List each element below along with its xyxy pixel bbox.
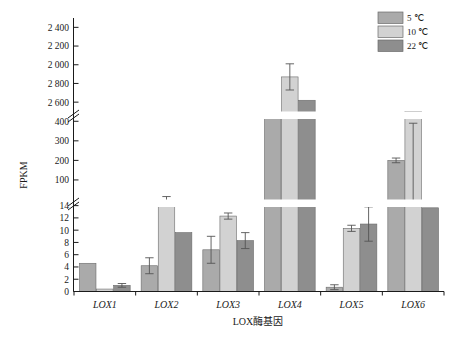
legend-label-1: 10 ℃ — [407, 27, 428, 37]
bar-LOX6-5 — [388, 160, 405, 291]
y-tick-label: 400 — [55, 117, 70, 127]
bar-LOX6-22 — [422, 208, 439, 292]
bar-LOX4-10 — [282, 77, 299, 292]
axis-break-band-upper — [74, 112, 444, 120]
x-category-label: LOX5 — [339, 299, 364, 310]
bar-LOX2-22 — [175, 233, 192, 292]
y-tick-label: 2 — [64, 275, 69, 285]
legend-label-2: 22 ℃ — [407, 41, 428, 51]
legend-swatch-1 — [378, 26, 403, 38]
x-category-label: LOX2 — [154, 299, 179, 310]
bar-LOX3-10 — [220, 216, 237, 291]
x-category-label: LOX6 — [400, 299, 425, 310]
axis-break-band-lower — [74, 200, 444, 208]
y-tick-label: 2 800 — [48, 79, 70, 89]
x-category-label: LOX4 — [277, 299, 302, 310]
y-tick-label: 300 — [55, 136, 70, 146]
x-axis-title: LOX酶基因 — [233, 315, 284, 327]
y-tick-label: 4 — [64, 262, 69, 272]
chart-svg: 024681012141002003004002 6002 8002 0002 … — [0, 0, 455, 343]
bar-LOX1-5 — [79, 263, 96, 291]
y-tick-label: 2 000 — [48, 60, 70, 70]
legend-label-0: 5 ℃ — [407, 13, 424, 23]
legend-swatch-0 — [378, 12, 403, 24]
bar-LOX2-10 — [158, 202, 175, 292]
y-tick-label: 8 — [64, 238, 69, 248]
y-tick-label: 12 — [60, 213, 70, 223]
x-category-label: LOX3 — [215, 299, 240, 310]
legend: 5 ℃10 ℃22 ℃ — [378, 12, 428, 52]
y-axis-title: FPKM — [18, 161, 29, 188]
bar-LOX5-10 — [343, 228, 360, 291]
bar-LOX4-22 — [299, 100, 316, 291]
y-tick-label: 200 — [55, 156, 70, 166]
bars-layer — [79, 64, 438, 292]
y-tick-label: 10 — [60, 226, 70, 236]
x-axis-ticks — [74, 292, 444, 296]
x-axis-category-labels: LOX1LOX2LOX3LOX4LOX5LOX6 — [92, 299, 425, 310]
y-tick-label: 2 400 — [48, 23, 70, 33]
x-category-label: LOX1 — [92, 299, 117, 310]
legend-swatch-2 — [378, 40, 403, 52]
y-tick-label: 14 — [60, 201, 70, 211]
y-axis-tick-labels: 024681012141002003004002 6002 8002 0002 … — [48, 23, 70, 297]
y-axis-ticks — [74, 27, 79, 291]
y-tick-label: 0 — [64, 287, 69, 297]
chart-container: 024681012141002003004002 6002 8002 0002 … — [0, 0, 455, 343]
y-tick-label: 2 600 — [48, 98, 70, 108]
y-tick-label: 2 200 — [48, 41, 70, 51]
y-tick-label: 6 — [64, 250, 69, 260]
y-tick-label: 100 — [55, 175, 70, 185]
